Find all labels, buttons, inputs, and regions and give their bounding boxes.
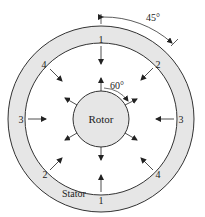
rotor: Rotor <box>73 91 129 147</box>
pole-label-upper-left: 4 <box>42 59 47 70</box>
pole-label-upper-right: 2 <box>156 59 161 70</box>
pole-label-top: 1 <box>99 34 104 45</box>
pole-label-lower-left: 2 <box>43 169 48 180</box>
angle-45-label: 45° <box>146 12 160 23</box>
stator-label: Stator <box>62 188 87 199</box>
pole-label-lower-right: 4 <box>156 169 161 180</box>
pole-label-bottom: 1 <box>99 195 104 206</box>
pole-label-left: 3 <box>19 114 24 125</box>
angle-60-label: 60° <box>110 80 124 91</box>
reluctance-motor-diagram: Rotor 45° 60° <box>0 0 205 217</box>
rotor-label: Rotor <box>88 113 113 125</box>
pole-label-right: 3 <box>179 114 184 125</box>
